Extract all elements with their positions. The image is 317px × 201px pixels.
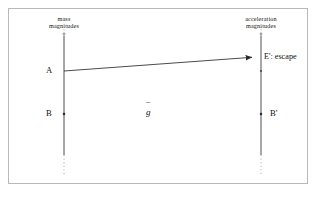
- diagram-canvas: [0, 0, 317, 201]
- left-axis-caption-line2: magnitudes: [29, 22, 99, 29]
- point-label-b-prime: B': [270, 108, 277, 118]
- point-label-a: A: [46, 65, 52, 75]
- mapping-arrow-a-to-escape: [64, 57, 252, 71]
- point-label-escape: E': escape: [264, 52, 297, 61]
- left-axis: [63, 30, 66, 175]
- point-marker-bp: [260, 113, 263, 116]
- right-axis-caption-line1: acceleration: [226, 15, 296, 22]
- map-symbol-letter: g: [146, 107, 151, 117]
- left-axis-caption: mass magnitudes: [29, 15, 99, 30]
- right-axis-caption-line2: magnitudes: [226, 22, 296, 29]
- point-marker-b: [63, 113, 66, 116]
- map-symbol-g-vector: ¯g: [146, 105, 151, 117]
- right-axis-caption: acceleration magnitudes: [226, 15, 296, 30]
- left-axis-top-cap: [63, 33, 65, 35]
- point-label-b: B: [46, 108, 52, 118]
- figure-container: mass magnitudes acceleration magnitudes …: [0, 0, 317, 201]
- point-marker-ep-lower-tick: [260, 70, 262, 72]
- left-axis-caption-line1: mass: [29, 15, 99, 22]
- right-axis: [260, 30, 263, 175]
- right-axis-top-cap: [260, 33, 262, 35]
